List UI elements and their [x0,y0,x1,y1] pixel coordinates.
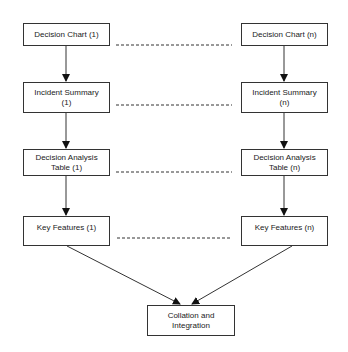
key-features-1-box: Key Features (1) [23,216,110,246]
connectors [0,0,348,352]
box-label-sub: (1) [34,98,98,108]
box-label-sub: Table (n) [253,163,315,173]
arrow-merge-left [67,246,180,304]
decision-analysis-table-n-box: Decision AnalysisTable (n) [241,149,328,176]
decision-chart-1-box: Decision Chart (1) [23,23,110,46]
decision-analysis-table-1-box: Decision AnalysisTable (1) [23,149,110,176]
incident-summary-n-box: Incident Summary(n) [241,82,328,113]
box-label-sub: Table (1) [35,163,97,173]
box-label: Collation and [168,311,215,321]
box-label-sub: Integration [168,321,215,331]
box-label-sub: (n) [252,98,316,108]
box-label: Decision Analysis [253,153,315,163]
box-label: Decision Analysis [35,153,97,163]
incident-summary-1-box: Incident Summary(1) [23,82,110,113]
decision-chart-n-box: Decision Chart (n) [241,23,328,46]
arrow-merge-right [192,246,292,304]
box-label: Decision Chart (1) [34,30,98,40]
box-label: Incident Summary [34,88,98,98]
key-features-n-box: Key Features (n) [241,216,328,246]
box-label: Key Features (n) [255,223,315,233]
collation-integration-box: Collation andIntegration [147,305,235,336]
box-label: Key Features (1) [37,223,97,233]
box-label: Incident Summary [252,88,316,98]
box-label: Decision Chart (n) [252,30,316,40]
